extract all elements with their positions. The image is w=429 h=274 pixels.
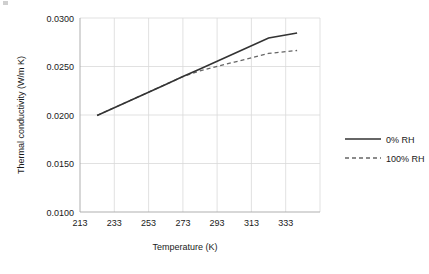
legend: 0% RH 100% RH — [345, 135, 425, 164]
x-tick-label-213: 213 — [72, 218, 87, 228]
y-axis-title: Thermal conductivity (W/m K) — [16, 56, 26, 174]
legend-item-0-rh: 0% RH — [345, 135, 415, 145]
x-tick-label-333: 333 — [278, 218, 293, 228]
y-tick-label-0.0250: 0.0250 — [46, 62, 74, 72]
y-tick-label-0.0150: 0.0150 — [46, 159, 74, 169]
x-tick-label-233: 233 — [107, 218, 122, 228]
x-tick-label-253: 253 — [141, 218, 156, 228]
y-tick-label-0.0300: 0.0300 — [46, 14, 74, 24]
x-tick-labels: 213 233 253 273 293 313 333 — [72, 218, 293, 228]
chart-figure: 0.0300 0.0250 0.0200 0.0150 0.0100 213 2… — [0, 0, 429, 274]
y-tick-label-0.0100: 0.0100 — [46, 208, 74, 218]
series-line-0-rh — [97, 33, 297, 115]
scan-artifact — [3, 1, 8, 5]
y-tick-labels: 0.0300 0.0250 0.0200 0.0150 0.0100 — [46, 14, 74, 218]
legend-label-0-rh: 0% RH — [386, 135, 415, 145]
series-group — [97, 33, 297, 115]
x-tick-label-273: 273 — [175, 218, 190, 228]
series-line-100-rh — [97, 51, 297, 116]
legend-label-100-rh: 100% RH — [386, 154, 425, 164]
line-chart-svg: 0.0300 0.0250 0.0200 0.0150 0.0100 213 2… — [0, 0, 429, 274]
x-tick-label-293: 293 — [210, 218, 225, 228]
legend-item-100-rh: 100% RH — [345, 154, 425, 164]
x-tick-label-313: 313 — [244, 218, 259, 228]
gridlines — [80, 18, 320, 212]
x-axis-title: Temperature (K) — [152, 242, 217, 252]
y-tick-label-0.0200: 0.0200 — [46, 111, 74, 121]
